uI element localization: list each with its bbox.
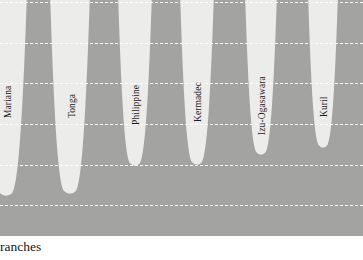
seafloor-profile [0,0,363,236]
figure-canvas: Mariana Tonga Philippine Kermadec Izu-Og… [0,0,363,260]
caption-area: ranches [0,236,363,260]
figure-caption: ranches [0,239,41,255]
chart-plot-area: Mariana Tonga Philippine Kermadec Izu-Og… [0,0,363,236]
